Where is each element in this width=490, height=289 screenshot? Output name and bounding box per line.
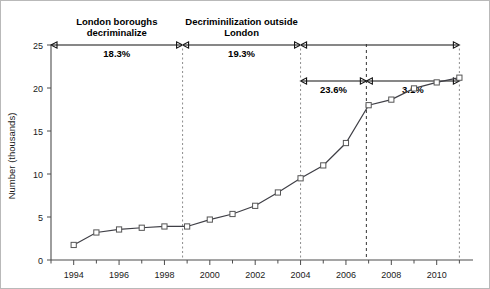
series-line bbox=[74, 78, 460, 245]
chart-figure: London boroughsdecriminalize18.3%Decrimi… bbox=[0, 0, 490, 289]
annotation-percent: 23.6% bbox=[320, 84, 347, 95]
annotation-percent: 19.3% bbox=[228, 48, 255, 59]
data-point-marker bbox=[230, 211, 235, 216]
data-point-marker bbox=[162, 224, 167, 229]
data-point-marker bbox=[411, 86, 416, 91]
annotation-label: London boroughs bbox=[76, 16, 157, 27]
annotation-label: London bbox=[224, 27, 259, 38]
y-tick-label: 20 bbox=[33, 84, 43, 94]
data-point-marker bbox=[434, 80, 439, 85]
data-point-marker bbox=[389, 97, 394, 102]
x-tick-label: 2008 bbox=[381, 270, 401, 280]
line-chart: London boroughsdecriminalize18.3%Decrimi… bbox=[1, 1, 490, 289]
data-point-marker bbox=[71, 242, 76, 247]
y-tick-label: 25 bbox=[33, 41, 43, 51]
y-axis-title: Number (thousands) bbox=[6, 113, 17, 200]
data-point-marker bbox=[116, 227, 121, 232]
annotation-label: Decriminilization outside bbox=[185, 16, 297, 27]
data-point-marker bbox=[253, 203, 258, 208]
y-tick-label: 15 bbox=[33, 127, 43, 137]
tick-label-layer: 0510152025199419961998200020022004200620… bbox=[33, 41, 447, 281]
data-point-marker bbox=[321, 163, 326, 168]
axes-layer bbox=[47, 45, 473, 265]
span-arrow-full-span-period bbox=[301, 42, 460, 48]
x-tick-label: 2000 bbox=[200, 270, 220, 280]
annotation-layer: London boroughsdecriminalize18.3%Decrimi… bbox=[51, 16, 459, 95]
data-point-marker bbox=[94, 230, 99, 235]
x-tick-label: 2004 bbox=[291, 270, 311, 280]
data-point-marker bbox=[343, 140, 348, 145]
data-point-marker bbox=[275, 190, 280, 195]
data-point-marker bbox=[298, 176, 303, 181]
series-layer bbox=[71, 75, 462, 247]
x-tick-label: 1998 bbox=[154, 270, 174, 280]
data-point-marker bbox=[207, 217, 212, 222]
divider-layer bbox=[183, 44, 460, 260]
x-tick-label: 2002 bbox=[245, 270, 265, 280]
y-tick-label: 0 bbox=[38, 256, 43, 266]
x-tick-label: 1996 bbox=[109, 270, 129, 280]
y-tick-label: 5 bbox=[38, 213, 43, 223]
x-tick-label: 2006 bbox=[336, 270, 356, 280]
data-point-marker bbox=[457, 75, 462, 80]
x-tick-label: 2010 bbox=[427, 270, 447, 280]
annotation-label: decriminalize bbox=[87, 27, 147, 38]
y-tick-label: 10 bbox=[33, 170, 43, 180]
annotation-percent: 18.3% bbox=[103, 48, 130, 59]
data-point-marker bbox=[139, 225, 144, 230]
data-point-marker bbox=[366, 103, 371, 108]
data-point-marker bbox=[185, 224, 190, 229]
x-tick-label: 1994 bbox=[64, 270, 84, 280]
